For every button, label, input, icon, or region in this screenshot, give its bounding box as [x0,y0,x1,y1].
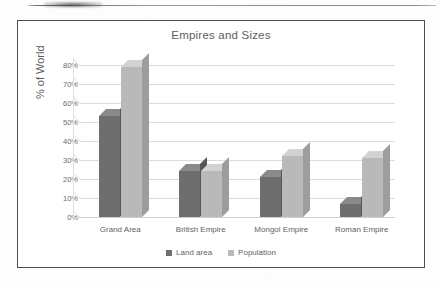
legend-swatch-icon-population [228,250,234,256]
bar-land-area [340,204,361,217]
bar-front-face [99,116,120,217]
bar-side-face [222,157,229,217]
bar-front-face [201,171,222,217]
chart-legend: Land area Population [18,248,424,257]
legend-label-population: Population [238,248,276,257]
bar-front-face [362,158,383,217]
bar-side-face [303,142,310,217]
legend-item-population: Population [228,248,276,257]
bar-land-area [260,177,281,217]
legend-swatch-icon-land-area [166,250,172,256]
x-axis-label: British Empire [176,225,226,234]
bar-population [282,156,303,217]
bar-side-face [383,144,390,217]
bar-population [362,158,383,217]
x-axis-label: Grand Area [100,225,141,234]
x-axis-line [73,217,395,218]
bar-land-area [179,171,200,217]
chart-frame: Empires and Sizes % of World 0%10%20%30%… [17,20,425,268]
legend-label-land-area: Land area [176,248,212,257]
bar-front-face [340,204,361,217]
scan-rule-artifact [28,5,436,6]
x-axis-label: Roman Empire [335,225,388,234]
bar-population [121,67,142,217]
bar-population [201,171,222,217]
bar-front-face [260,177,281,217]
bar-front-face [179,171,200,217]
bar-front-face [121,67,142,217]
legend-item-land-area: Land area [166,248,212,257]
x-axis-label: Mongol Empire [254,225,308,234]
bar-land-area [99,116,120,217]
bar-front-face [282,156,303,217]
bar-side-face [142,53,149,217]
plot-back-wall [73,58,74,217]
plot-area: 0%10%20%30%40%50%60%70%80% Grand AreaBri… [18,21,424,267]
